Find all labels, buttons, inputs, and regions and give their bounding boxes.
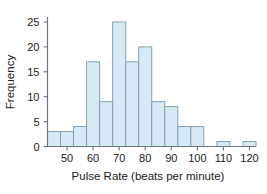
y-tick-label: 15 xyxy=(27,66,39,78)
histogram-bar xyxy=(165,107,178,147)
x-tick-label: 60 xyxy=(87,152,99,164)
y-tick-label: 20 xyxy=(27,41,39,53)
x-tick-label: 100 xyxy=(188,152,206,164)
histogram-bar xyxy=(152,102,165,147)
x-tick-label: 70 xyxy=(113,152,125,164)
x-axis-title: Pulse Rate (beats per minute) xyxy=(72,170,225,182)
histogram-bar xyxy=(74,127,87,147)
x-tick-label: 50 xyxy=(61,152,73,164)
y-tick-label: 25 xyxy=(27,16,39,28)
histogram-bar xyxy=(100,102,113,147)
y-tick-label: 5 xyxy=(33,116,39,128)
histogram-bar xyxy=(48,132,61,147)
y-tick-label: 10 xyxy=(27,91,39,103)
y-axis-title: Frequency xyxy=(4,55,16,110)
histogram-bar xyxy=(87,62,100,147)
histogram-bar xyxy=(126,62,139,147)
y-tick-label: 0 xyxy=(33,141,39,153)
histogram-figure: 0510152025 5060708090100110120 Pulse Rat… xyxy=(0,0,267,194)
histogram-bar xyxy=(139,47,152,147)
x-tick-label: 90 xyxy=(165,152,177,164)
histogram-bar xyxy=(61,132,74,147)
histogram-bar xyxy=(217,142,230,147)
histogram-bar xyxy=(113,22,126,147)
histogram-bar xyxy=(178,127,191,147)
x-tick-label: 110 xyxy=(215,152,233,164)
histogram-bar xyxy=(191,127,204,147)
histogram-svg: 0510152025 5060708090100110120 Pulse Rat… xyxy=(0,0,267,194)
x-tick-label: 120 xyxy=(240,152,258,164)
x-tick-label: 80 xyxy=(139,152,151,164)
histogram-bar xyxy=(243,142,256,147)
